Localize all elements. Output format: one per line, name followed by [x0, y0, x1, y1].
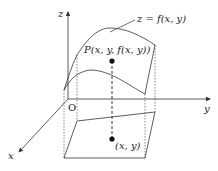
diagram-canvas: z y x O z = f(x, y) P(x, y, f(x, y)) (x,…	[0, 0, 218, 171]
x-axis	[19, 99, 68, 152]
point-P	[109, 58, 114, 63]
surface-label-leader	[110, 20, 135, 32]
domain-region	[64, 112, 155, 158]
y-axis-label: y	[203, 103, 210, 114]
point-xy	[109, 136, 114, 141]
point-P-label: P(x, y, f(x, y))	[83, 44, 150, 55]
origin-label: O	[68, 102, 76, 113]
surface-label: z = f(x, y)	[136, 13, 186, 24]
z-axis-label: z	[57, 8, 64, 19]
point-xy-label: (x, y)	[115, 140, 141, 151]
x-axis-label: x	[8, 150, 14, 161]
projection-lines	[64, 45, 155, 158]
